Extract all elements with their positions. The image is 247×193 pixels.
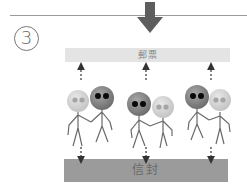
- down-arrows: [81, 147, 211, 160]
- figure-group-2: [127, 92, 174, 148]
- up-arrows: [81, 66, 211, 80]
- figure-group-3: [185, 85, 231, 144]
- diagram-figures: [0, 0, 247, 193]
- figure-group-1: [67, 86, 114, 146]
